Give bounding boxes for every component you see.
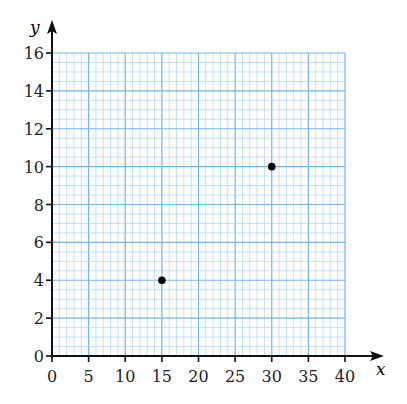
x-tick-label: 10 [115, 367, 135, 386]
y-tick-label: 6 [34, 233, 44, 252]
x-tick-label: 40 [335, 367, 355, 386]
y-tick-label: 8 [34, 196, 44, 215]
x-tick-label: 25 [225, 367, 245, 386]
y-tick-label: 0 [34, 347, 44, 366]
graph-paper-chart: 05101520253035400246810121416 x y [0, 0, 407, 404]
data-point [268, 163, 276, 171]
x-tick-label: 35 [298, 367, 318, 386]
x-tick-label: 5 [84, 367, 94, 386]
y-tick-label: 10 [24, 158, 44, 177]
x-axis-label: x [376, 359, 386, 379]
data-point [158, 276, 166, 284]
y-tick-label: 14 [24, 82, 44, 101]
grid [52, 53, 345, 356]
y-tick-label: 4 [34, 271, 44, 290]
y-axis-label: y [29, 17, 40, 37]
x-tick-label: 20 [188, 367, 208, 386]
x-tick-label: 30 [262, 367, 282, 386]
x-tick-label: 0 [47, 367, 57, 386]
y-tick-label: 2 [34, 309, 44, 328]
x-tick-label: 15 [152, 367, 172, 386]
y-tick-label: 16 [24, 44, 44, 63]
y-tick-label: 12 [24, 120, 44, 139]
